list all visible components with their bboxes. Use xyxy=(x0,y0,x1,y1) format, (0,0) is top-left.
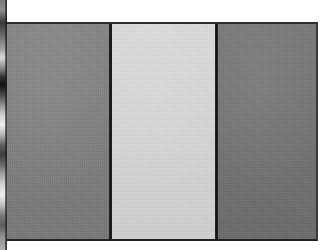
left-edge-strip xyxy=(0,0,7,250)
flag-divider-right xyxy=(215,24,218,239)
flag-divider-left xyxy=(109,24,112,239)
flag-band-hoist xyxy=(7,24,109,239)
image-canvas: Grayscale photograph of a vertical triba… xyxy=(0,0,330,250)
flag-image xyxy=(7,22,318,241)
flag-band-fly xyxy=(218,24,316,239)
flag-band-middle xyxy=(112,24,215,239)
